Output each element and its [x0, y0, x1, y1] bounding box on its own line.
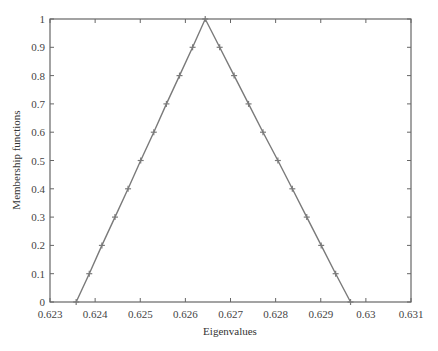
- data-point-marker: [318, 242, 324, 248]
- x-tick-label: 0.628: [263, 308, 288, 320]
- data-point-marker: [246, 101, 252, 107]
- data-point-marker: [73, 299, 79, 305]
- x-tick-label: 0.63: [356, 308, 376, 320]
- data-point-marker: [217, 44, 223, 50]
- x-axis-ticks: 0.6230.6240.6250.6260.6270.6280.6290.630…: [38, 19, 424, 320]
- series-line: [73, 16, 353, 305]
- y-tick-label: 0.3: [31, 211, 45, 223]
- x-tick-label: 0.626: [173, 308, 198, 320]
- y-tick-label: 1: [40, 13, 46, 25]
- x-tick-label: 0.631: [399, 308, 424, 320]
- data-point-marker: [86, 271, 92, 277]
- y-tick-label: 0.5: [31, 155, 45, 167]
- data-point-marker: [275, 158, 281, 164]
- membership-function-chart: 0.6230.6240.6250.6260.6270.6280.6290.630…: [0, 0, 438, 351]
- y-tick-label: 0.7: [31, 98, 45, 110]
- x-tick-label: 0.624: [83, 308, 108, 320]
- data-point-marker: [304, 214, 310, 220]
- y-tick-label: 0.6: [31, 126, 45, 138]
- data-point-marker: [151, 129, 157, 135]
- x-tick-label: 0.625: [128, 308, 153, 320]
- x-tick-label: 0.627: [218, 308, 243, 320]
- y-tick-label: 0.2: [31, 239, 45, 251]
- data-point-marker: [333, 271, 339, 277]
- data-point-marker: [202, 16, 208, 22]
- data-point-marker: [289, 186, 295, 192]
- y-tick-label: 0.9: [31, 41, 45, 53]
- plot-frame: [50, 19, 411, 302]
- data-point-marker: [231, 73, 237, 79]
- data-point-marker: [348, 299, 354, 305]
- y-tick-label: 0.1: [31, 268, 45, 280]
- data-point-marker: [163, 101, 169, 107]
- y-axis-ticks: 00.10.20.30.40.50.60.70.80.91: [31, 13, 411, 308]
- data-point-marker: [190, 44, 196, 50]
- y-tick-label: 0.4: [31, 183, 45, 195]
- x-tick-label: 0.629: [308, 308, 333, 320]
- y-tick-label: 0: [40, 296, 46, 308]
- data-point-marker: [112, 214, 118, 220]
- data-point-marker: [260, 129, 266, 135]
- x-tick-label: 0.623: [38, 308, 63, 320]
- data-point-marker: [99, 242, 105, 248]
- y-axis-label: Membership functions: [10, 110, 22, 209]
- x-axis-label: Eigenvalues: [203, 325, 257, 337]
- data-point-marker: [125, 186, 131, 192]
- data-point-marker: [177, 73, 183, 79]
- y-tick-label: 0.8: [31, 70, 45, 82]
- data-point-marker: [138, 158, 144, 164]
